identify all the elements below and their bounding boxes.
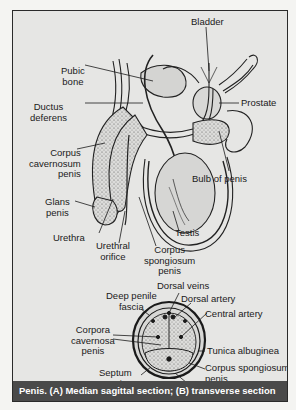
label-corpus-cavernosum: Corpus cavernosum penis [29,148,81,180]
label-text: Septum [99,368,132,379]
label-dorsal-artery: Dorsal artery [181,294,235,305]
label-dorsal-veins: Dorsal veins [157,281,209,292]
label-text: penis [71,346,115,357]
figure-caption: Penis. (A) Median sagittal section; (B) … [13,381,287,401]
label-text: penis [144,266,195,277]
label-urethral-orifice: Urethral orifice [96,241,130,262]
label-corpora-cavernosa: Corpora cavernosa penis [71,325,115,357]
label-corpus-spongiosum-a: Corpus spongiosum penis [144,245,195,277]
label-text: deferens [30,113,67,124]
label-text: Pubic [61,66,85,77]
sagittal-drawing [93,55,258,251]
label-deep-penile-fascia: Deep penile fascia [106,291,157,312]
label-prostate: Prostate [241,98,276,109]
label-pubic-bone: Pubic bone [61,66,85,87]
label-central-artery: Central artery [205,309,263,320]
label-text: Corpus [144,245,195,256]
label-text: fascia [106,302,157,313]
figure-panel: Bladder Pubic bone Ductus deferens Prost… [12,10,288,402]
label-bladder: Bladder [191,17,224,28]
label-text: penis [45,208,70,219]
label-text: Urethral [96,241,130,252]
label-glans-penis: Glans penis [45,197,70,218]
label-text: Corpus spongiosum [205,363,288,374]
label-text: Corpus [29,148,81,159]
label-testis: Testis [175,228,199,239]
label-text: Deep penile [106,291,157,302]
label-text: Ductus [30,102,67,113]
label-text: penis [29,169,81,180]
label-text: Corpora [71,325,115,336]
transverse-drawing [133,302,205,378]
label-tunica-albuginea: Tunica albuginea [207,346,279,357]
label-urethra-a: Urethra [53,233,85,244]
label-text: orifice [96,252,130,263]
label-bulb-of-penis: Bulb of penis [192,174,247,185]
label-text: bone [61,77,85,88]
label-text: Glans [45,197,70,208]
label-ductus-deferens: Ductus deferens [30,102,67,123]
